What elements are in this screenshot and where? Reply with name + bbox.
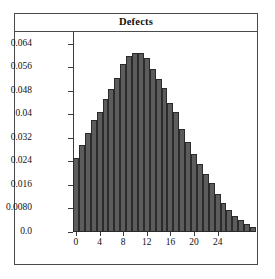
y-axis-tick — [68, 232, 73, 233]
x-axis-tick-label: 0 — [74, 238, 79, 248]
x-axis-tick-label: 12 — [142, 238, 152, 248]
x-axis-tick — [100, 232, 101, 236]
x-axis-tick-label: 20 — [189, 238, 199, 248]
chart-title-bar: Defects — [15, 14, 257, 32]
y-axis-tick-label: 0.016 — [11, 180, 32, 190]
x-axis-tick-label: 8 — [121, 238, 126, 248]
x-axis-tick-label: 4 — [97, 238, 102, 248]
y-axis-tick-label: 0.0 — [20, 227, 32, 237]
y-axis-tick-label: 0.032 — [11, 133, 32, 143]
x-axis-tick — [147, 232, 148, 236]
y-axis-tick-label: 0.064 — [11, 39, 32, 49]
y-axis-tick-label: 0.024 — [11, 156, 32, 166]
x-axis-tick-label: 24 — [213, 238, 223, 248]
page-title: Defects — [119, 17, 153, 28]
y-axis-tick-label: 0.04 — [15, 109, 32, 119]
histogram-bars — [73, 32, 256, 232]
y-axis-tick-label: 0.0080 — [6, 203, 32, 213]
x-axis-tick — [170, 232, 171, 236]
y-axis-tick-label: 0.056 — [11, 62, 32, 72]
x-axis-tick-label: 16 — [166, 238, 176, 248]
plot-region: 0.00.00800.0160.0240.0320.040.0480.0560.… — [15, 32, 257, 264]
x-axis-tick — [76, 232, 77, 236]
histogram-bar — [250, 227, 256, 232]
y-axis-tick-label: 0.048 — [11, 86, 32, 96]
x-axis-tick — [218, 232, 219, 236]
x-axis-tick — [194, 232, 195, 236]
x-axis-tick — [123, 232, 124, 236]
chart-figure: Defects 0.00.00800.0160.0240.0320.040.04… — [14, 13, 258, 265]
